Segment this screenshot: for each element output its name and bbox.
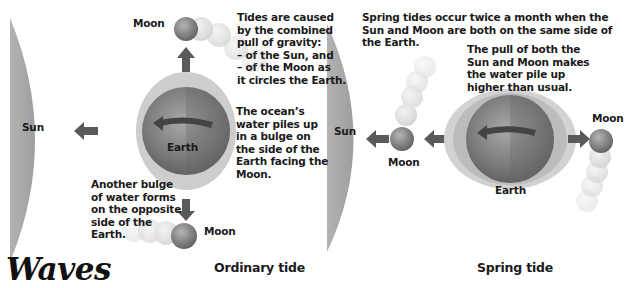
sun-left — [10, 18, 35, 262]
moon-bottom-label: Moon — [204, 225, 236, 238]
moon-right-label: Moon — [592, 112, 624, 125]
arrow-left-small-icon — [424, 130, 446, 148]
sun-label-right: Sun — [334, 125, 356, 138]
moon-top-label: Moon — [133, 17, 165, 30]
arrow-left-icon — [74, 122, 98, 140]
earth-spring — [444, 89, 576, 189]
sun-label-left: Sun — [22, 121, 44, 134]
moon-left-label: Moon — [388, 156, 420, 169]
note-opposite: Another bulge of water forms on the oppo… — [91, 178, 181, 241]
note-gravity: Tides are caused by the combined pull of… — [237, 11, 346, 86]
section-title: Waves — [6, 251, 111, 287]
note-bulge: The ocean’s water piles up in a bulge on… — [236, 105, 328, 180]
caption-spring-tide: Spring tide — [477, 262, 553, 275]
arrow-to-sun-icon — [366, 130, 389, 148]
tides-diagram: Moon Tides are caused by the combined pu… — [0, 0, 631, 288]
earth-label-spring: Earth — [495, 184, 526, 197]
earth-label-ordinary: Earth — [167, 141, 198, 154]
earth-ordinary — [136, 72, 236, 190]
arrow-up-icon — [177, 47, 195, 72]
note-pull: The pull of both the Sun and Moon makes … — [467, 43, 589, 93]
caption-ordinary-tide: Ordinary tide — [214, 262, 305, 275]
